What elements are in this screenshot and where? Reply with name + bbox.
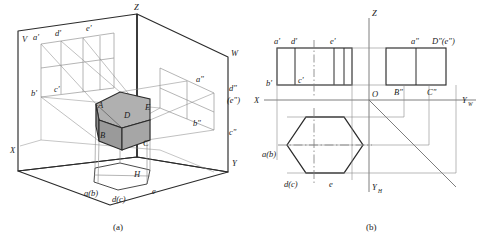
proj-d-v (61, 41, 120, 92)
label-c-prime: c' (54, 84, 60, 94)
label-e-dprime: (e") (227, 95, 240, 105)
label-b-c-prime: c' (298, 75, 304, 85)
h-mid-line (94, 175, 150, 176)
label-b-dprime: b" (193, 118, 201, 128)
label-b-C-dprime: C" (427, 87, 437, 97)
label-vertex-d: D (123, 110, 131, 120)
label-b-e-prime: e' (330, 36, 336, 46)
ref-h-4 (20, 140, 41, 146)
label-vertex-e: E (144, 102, 151, 112)
label-d-prime: d' (55, 28, 61, 38)
label-b-axis-yh-sub: H (377, 188, 383, 194)
label-b-axis-yh: Y H (372, 182, 383, 194)
proj-c-w (147, 130, 214, 140)
label-b-dc-top: d(c) (284, 179, 298, 189)
label-dc-top: d(c) (112, 194, 126, 204)
label-a-dprime: a" (196, 74, 204, 84)
label-b-e-top: e (329, 179, 333, 189)
label-vertex-c: C (143, 138, 149, 148)
front-view-outline (277, 48, 352, 85)
caption-panel-a: (a) (113, 222, 123, 232)
top-view (278, 108, 372, 185)
caption-panel-b: (b) (366, 222, 377, 232)
panel-a-3d-projection: V H W X Y Z a' d' e' b' c' a" d" (e") b"… (0, 0, 244, 237)
side-view (386, 48, 446, 85)
label-d-dprime: d" (229, 83, 237, 93)
front-view (277, 40, 352, 96)
label-w-plane: W (231, 48, 239, 58)
label-c-dprime: c" (229, 127, 237, 137)
label-v-plane: V (22, 34, 29, 44)
w-plane (137, 14, 228, 172)
label-b-b-prime: b' (266, 78, 272, 88)
label-e-top: e (152, 186, 156, 196)
label-b-prime: b' (31, 88, 37, 98)
figure-container: V H W X Y Z a' d' e' b' c' a" d" (e") b"… (0, 0, 488, 237)
hexagonal-prism-solid (96, 92, 150, 150)
label-axis-x: X (9, 145, 16, 155)
h-top-hexagon (94, 163, 150, 190)
label-b-axis-x: X (253, 95, 260, 105)
proj-b-down (98, 141, 99, 184)
label-h-plane: H (133, 169, 141, 179)
label-vertex-a: A (97, 100, 104, 110)
miter-45-line (369, 100, 456, 187)
proj-b-v (41, 97, 99, 141)
panel-b-orthographic-views: X Z O Y W Y H a' d' e' b' c' a" D"(e") B… (244, 0, 488, 237)
proj-e-w (150, 93, 214, 120)
label-b-axis-z: Z (372, 8, 377, 18)
ref-h-3 (160, 150, 214, 172)
label-a-prime: a' (33, 32, 39, 42)
label-b-axis-yw: Y W (462, 95, 473, 107)
label-axis-y: Y (232, 158, 238, 168)
v-mid-h (41, 58, 114, 68)
label-b-ab-top: a(b) (262, 149, 276, 159)
label-b-de-dprime: D"(e") (431, 36, 455, 46)
proj-a-v (41, 44, 96, 104)
v-front-rect (41, 33, 114, 97)
label-b-B-dprime: B" (394, 87, 403, 97)
label-ab-top: a(b) (84, 188, 98, 198)
label-axis-z: Z (134, 2, 139, 12)
label-b-a-dprime: a" (411, 36, 419, 46)
proj-d-w (120, 81, 187, 92)
label-b-a-prime: a' (274, 36, 280, 46)
label-b-d-prime: d' (291, 36, 297, 46)
label-e-prime: e' (86, 23, 92, 33)
label-b-origin: O (372, 89, 378, 99)
label-b-axis-yw-sub: W (468, 101, 473, 107)
label-vertex-b: B (100, 130, 105, 140)
